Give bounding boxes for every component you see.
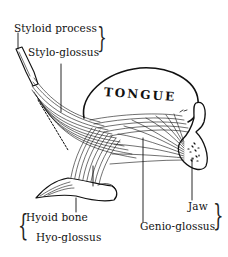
hyo-glossus-label: Hyo-glossus bbox=[36, 231, 101, 243]
styloid-process-label: Styloid process bbox=[14, 22, 97, 34]
hyoid-bone-shape bbox=[36, 178, 117, 201]
genio-glossus-label: Genio-glossus bbox=[140, 220, 215, 232]
jaw-label: Jaw bbox=[188, 200, 208, 212]
top-right-brace: } bbox=[97, 24, 107, 52]
hyoid-bone-label: Hyoid bone bbox=[26, 211, 88, 223]
stylo-glossus-label: Stylo-glossus bbox=[28, 46, 99, 58]
jaw-shape bbox=[178, 102, 207, 169]
bottom-right-brace: } bbox=[213, 200, 224, 230]
tongue-muscles-diagram: TONGUE Styloid process Stylo-glossus } {… bbox=[0, 0, 228, 257]
genio-glossus-fibers bbox=[110, 114, 184, 164]
